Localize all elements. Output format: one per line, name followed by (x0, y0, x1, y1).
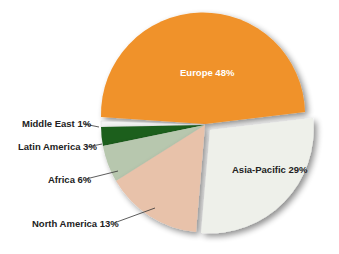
label-middle-east: Middle East 1% (22, 118, 92, 129)
label-north-america: North America 13% (32, 218, 119, 229)
label-africa: Africa 6% (48, 174, 92, 185)
slice-asia-pacific (201, 118, 314, 233)
pie-chart: Europe 48% Asia-Pacific 29% North Americ… (0, 0, 339, 254)
label-asia-pacific: Asia-Pacific 29% (232, 164, 308, 175)
label-europe: Europe 48% (180, 67, 235, 78)
label-latin-america: Latin America 3% (18, 141, 97, 152)
